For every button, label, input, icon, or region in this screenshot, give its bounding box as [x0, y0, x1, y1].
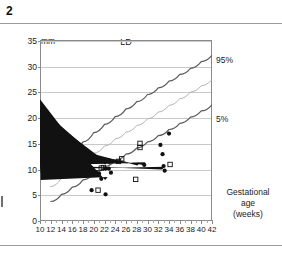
- x-axis-caption-line3: (weeks): [214, 209, 282, 220]
- y-tick-label: 25: [28, 88, 37, 96]
- x-tick-mark: [158, 220, 159, 224]
- x-axis-caption: Gestational age (weeks): [214, 187, 282, 220]
- data-point-filled-circle: [158, 143, 162, 147]
- x-tick-minor: [67, 220, 68, 223]
- x-tick-label: 32: [154, 225, 163, 234]
- x-tick-minor: [110, 220, 111, 223]
- x-tick-minor: [99, 220, 100, 223]
- x-tick-minor: [207, 220, 208, 223]
- x-tick-label: 40: [197, 225, 206, 234]
- x-tick-label: 20: [89, 225, 98, 234]
- x-tick-label: 10: [36, 225, 45, 234]
- x-tick-minor: [78, 220, 79, 223]
- data-point-filled-circle: [109, 171, 113, 175]
- x-tick-mark: [40, 220, 41, 224]
- y-tick-label: 20: [28, 114, 37, 122]
- percentile-label-lower: 5%: [216, 114, 228, 124]
- x-tick-mark: [51, 220, 52, 224]
- figure-number: 2: [6, 4, 13, 18]
- x-tick-mark: [169, 220, 170, 224]
- x-tick-label: 14: [57, 225, 66, 234]
- x-tick-label: 28: [132, 225, 141, 234]
- growth-chart-figure: mm LD 05101520253035 1012141618202224262…: [0, 24, 282, 245]
- y-tick-label: 0: [32, 217, 37, 225]
- x-tick-label: 22: [100, 225, 109, 234]
- x-tick-minor: [153, 220, 154, 223]
- x-tick-mark: [126, 220, 127, 224]
- x-tick-minor: [88, 220, 89, 223]
- x-tick-mark: [212, 220, 213, 224]
- bottom-divider: [0, 245, 282, 246]
- data-point-open-square: [96, 188, 100, 192]
- x-tick-mark: [137, 220, 138, 224]
- data-point-open-square: [168, 162, 172, 166]
- x-tick-mark: [191, 220, 192, 224]
- x-tick-minor: [185, 220, 186, 223]
- data-point-layer: [40, 40, 212, 220]
- x-tick-minor: [131, 220, 132, 223]
- data-point-filled-circle: [163, 169, 167, 173]
- y-tick-label: 30: [28, 63, 37, 71]
- y-tick-label: 10: [28, 166, 37, 174]
- y-tick-label: 5: [32, 191, 37, 199]
- x-tick-label: 12: [46, 225, 55, 234]
- x-tick-minor: [121, 220, 122, 223]
- x-tick-label: 34: [165, 225, 174, 234]
- data-point-open-square: [133, 177, 137, 181]
- x-tick-label: 30: [143, 225, 152, 234]
- x-tick-mark: [83, 220, 84, 224]
- x-tick-mark: [94, 220, 95, 224]
- data-point-filled-circle: [107, 166, 111, 170]
- x-tick-label: 38: [186, 225, 195, 234]
- data-point-filled-circle: [167, 132, 171, 136]
- data-point-filled-circle: [90, 188, 94, 192]
- x-tick-label: 42: [208, 225, 217, 234]
- x-tick-minor: [142, 220, 143, 223]
- x-tick-mark: [72, 220, 73, 224]
- x-tick-label: 36: [175, 225, 184, 234]
- x-tick-minor: [196, 220, 197, 223]
- x-tick-minor: [56, 220, 57, 223]
- x-tick-minor: [45, 220, 46, 223]
- x-axis-caption-line2: age: [214, 198, 282, 209]
- x-tick-mark: [105, 220, 106, 224]
- x-tick-label: 24: [111, 225, 120, 234]
- x-axis-caption-line1: Gestational: [214, 187, 282, 198]
- x-tick-mark: [180, 220, 181, 224]
- x-tick-minor: [164, 220, 165, 223]
- y-tick-label: 15: [28, 140, 37, 148]
- x-tick-label: 16: [68, 225, 77, 234]
- x-tick-mark: [62, 220, 63, 224]
- x-tick-minor: [174, 220, 175, 223]
- x-tick-mark: [201, 220, 202, 224]
- x-tick-label: 26: [122, 225, 131, 234]
- x-tick-label: 18: [79, 225, 88, 234]
- x-tick-mark: [148, 220, 149, 224]
- percentile-label-upper: 95%: [216, 55, 233, 65]
- x-tick-mark: [115, 220, 116, 224]
- data-point-filled-circle: [160, 152, 164, 156]
- y-tick-label: 35: [28, 37, 37, 45]
- data-point-filled-circle: [103, 192, 107, 196]
